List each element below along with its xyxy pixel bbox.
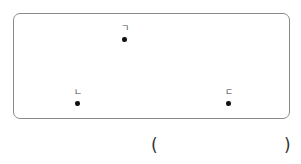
answer-open-paren: ( bbox=[151, 135, 158, 155]
point-label: ㄱ bbox=[119, 23, 131, 33]
point-dot bbox=[75, 101, 80, 106]
point-dot bbox=[122, 37, 127, 42]
diagram-frame bbox=[13, 13, 290, 119]
point-dot bbox=[226, 101, 231, 106]
point-label: ㄴ bbox=[72, 87, 84, 97]
point-label: ㄷ bbox=[223, 87, 235, 97]
answer-close-paren: ) bbox=[284, 135, 291, 155]
answer-blank[interactable] bbox=[162, 135, 280, 155]
